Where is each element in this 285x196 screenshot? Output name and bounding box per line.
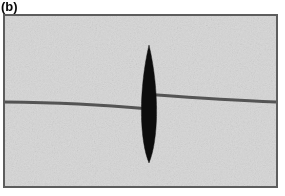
panel-label: (b) <box>1 0 18 14</box>
figure-panel: (b) <box>0 0 285 196</box>
figure-drawing-canvas <box>5 16 276 186</box>
figure-image-frame <box>3 14 278 188</box>
